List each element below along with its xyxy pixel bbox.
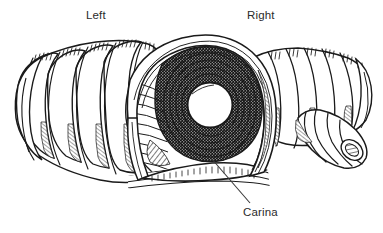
label-right: Right — [247, 10, 275, 22]
anatomy-figure: Left Right Carina — [0, 0, 383, 233]
label-carina: Carina — [243, 207, 278, 219]
bronchial-lumen — [188, 83, 233, 128]
label-left: Left — [86, 10, 106, 22]
tracheal-bifurcation-drawing — [0, 0, 383, 233]
bifurcation-interior — [120, 35, 280, 200]
